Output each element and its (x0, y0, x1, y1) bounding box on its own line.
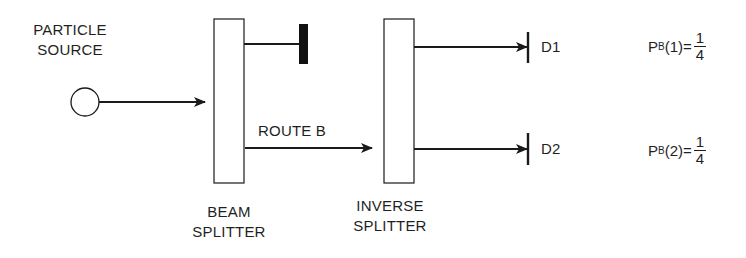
probability-d1: PB(1)= 1 4 (648, 30, 706, 63)
probability-d2: PB(2)= 1 4 (648, 134, 706, 167)
probability-d2-denominator: 4 (696, 151, 704, 167)
beam-splitter-label-line1: BEAM (184, 202, 274, 222)
probability-d2-arg: (2)= (665, 142, 692, 159)
inverse-splitter-label-line2: SPLITTER (340, 216, 440, 236)
route-b-label: ROUTE B (258, 122, 326, 139)
probability-d1-denominator: 4 (696, 47, 704, 63)
beam-splitter-box (214, 19, 244, 183)
absorber-block (299, 24, 308, 64)
beam-splitter-label-line2: SPLITTER (184, 222, 274, 242)
probability-d2-subscript: B (658, 145, 665, 156)
inverse-splitter-label: INVERSE SPLITTER (340, 196, 440, 236)
detector-d1-label: D1 (541, 38, 561, 55)
probability-d2-fraction: 1 4 (694, 134, 706, 167)
probability-d1-symbol: P (648, 38, 658, 55)
probability-d2-numerator: 1 (694, 134, 706, 151)
particle-source-label: PARTICLE SOURCE (26, 20, 114, 60)
beam-splitter-label: BEAM SPLITTER (184, 202, 274, 242)
detector-d2-label: D2 (541, 140, 561, 157)
probability-d1-fraction: 1 4 (694, 30, 706, 63)
inverse-splitter-box (384, 19, 414, 183)
probability-d2-symbol: P (648, 142, 658, 159)
particle-source-label-line2: SOURCE (26, 40, 114, 60)
probability-d1-subscript: B (658, 41, 665, 52)
particle-source-label-line1: PARTICLE (26, 20, 114, 40)
probability-d1-arg: (1)= (665, 38, 692, 55)
inverse-splitter-label-line1: INVERSE (340, 196, 440, 216)
particle-source-circle (71, 88, 99, 116)
probability-d1-numerator: 1 (694, 30, 706, 47)
